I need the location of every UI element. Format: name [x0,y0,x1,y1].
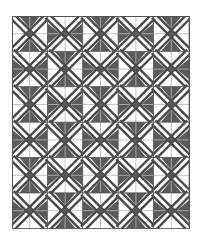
quilt-block [116,191,155,229]
quilt-block [46,50,85,89]
quilt-block [12,191,49,229]
quilt-block [12,156,49,195]
quilt-block [12,16,49,53]
quilt-pattern [12,16,190,229]
quilt-block [152,120,190,159]
quilt-block [46,16,85,53]
quilt-block [116,85,155,124]
quilt-block [81,16,120,53]
quilt-block [81,156,120,195]
quilt-block [81,120,120,159]
quilt-block [12,85,49,124]
quilt-block [46,156,85,195]
quilt-block [116,120,155,159]
quilt-block [116,156,155,195]
quilt-block [152,156,190,195]
quilt-block [152,85,190,124]
quilt-block [152,50,190,89]
quilt-block [81,85,120,124]
quilt-block [12,120,49,159]
quilt-block [81,50,120,89]
quilt-block [46,191,85,229]
quilt-block [12,50,49,89]
quilt-block [46,120,85,159]
quilt-block [81,191,120,229]
quilt-block [46,85,85,124]
quilt-block [152,191,190,229]
quilt-block [152,16,190,53]
quilt-block [116,16,155,53]
quilt-block [116,50,155,89]
